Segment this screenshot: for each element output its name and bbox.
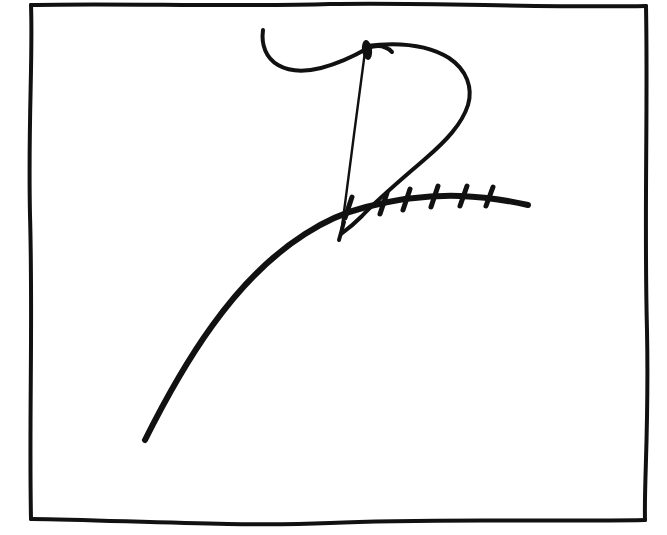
frame-left-edge: [30, 5, 32, 519]
sketch-canvas: [0, 0, 667, 535]
paper-background: [0, 0, 667, 535]
frame-right-edge: [645, 6, 648, 520]
sketch-page: [0, 0, 667, 535]
